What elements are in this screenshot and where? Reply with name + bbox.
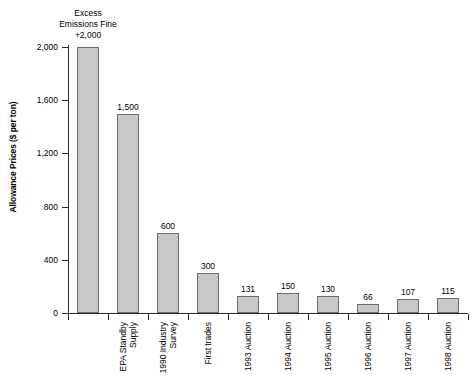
bar: [157, 233, 179, 313]
x-tick-mark: [468, 314, 469, 320]
bar: [117, 114, 139, 314]
bar: [197, 273, 219, 313]
x-category-label-line: 1994 Auction: [283, 322, 293, 371]
x-category-label: 1994 Auction: [268, 322, 308, 382]
x-category-label-line: 1997 Auction: [403, 322, 413, 371]
bar: [237, 296, 259, 313]
bar-value-label: 600: [138, 221, 198, 231]
bar: [277, 293, 299, 313]
first-bar-annotation: ExcessEmissions Fine+2,000: [28, 8, 148, 41]
x-category-label-line: Supply: [128, 322, 138, 371]
bar: [317, 296, 339, 313]
y-tick-label: 1,200: [14, 148, 58, 158]
bar: [357, 304, 379, 313]
first-bar-annotation-line: Excess: [28, 8, 148, 19]
bar-value-label: 115: [418, 286, 475, 296]
y-tick-mark: [62, 47, 68, 48]
x-tick-mark: [228, 314, 229, 320]
x-category-label-line: 1993 Auction: [243, 322, 253, 371]
x-tick-mark: [348, 314, 349, 320]
x-category-label: 1998 Auction: [428, 322, 468, 382]
first-bar-annotation-line: Emissions Fine: [28, 19, 148, 30]
x-tick-mark: [68, 314, 69, 320]
x-category-label-line: 1990 Industry: [158, 322, 168, 374]
y-tick-mark: [62, 153, 68, 154]
x-tick-mark: [308, 314, 309, 320]
bar: [397, 299, 419, 313]
bar-value-label: 300: [178, 261, 238, 271]
y-tick-label: 800: [14, 202, 58, 212]
x-category-label-line: 1998 Auction: [443, 322, 453, 371]
x-category-label-line: 1996 Auction: [363, 322, 373, 371]
x-tick-mark: [428, 314, 429, 320]
y-tick-mark: [62, 100, 68, 101]
x-tick-mark: [188, 314, 189, 320]
y-tick-mark: [62, 207, 68, 208]
x-category-label: 1995 Auction: [308, 322, 348, 382]
bar-value-label: +2,000: [28, 30, 148, 41]
bar: [77, 47, 99, 313]
y-tick-label: 1,600: [14, 95, 58, 105]
x-category-label: EPA StandbySupply: [108, 322, 148, 382]
bar-value-label: 1,500: [98, 102, 158, 112]
x-tick-mark: [148, 314, 149, 320]
x-tick-mark: [268, 314, 269, 320]
y-tick-mark: [62, 313, 68, 314]
bar-chart: Allowance Prices ($ per ton) 04008001,20…: [0, 0, 475, 382]
x-category-label: 1990 IndustrySurvey: [148, 322, 188, 382]
x-category-label-line: EPA Standby: [118, 322, 128, 371]
x-category-label-line: 1995 Auction: [323, 322, 333, 371]
bar: [437, 298, 459, 313]
y-axis-line: [68, 45, 69, 314]
x-category-label-line: First trades: [203, 322, 213, 365]
x-category-label: 1997 Auction: [388, 322, 428, 382]
y-tick-label: 0: [14, 308, 58, 318]
y-tick-mark: [62, 260, 68, 261]
x-category-label-line: Survey: [168, 322, 178, 374]
x-category-label: 1993 Auction: [228, 322, 268, 382]
x-category-label: First trades: [188, 322, 228, 382]
x-tick-mark: [388, 314, 389, 320]
x-tick-mark: [108, 314, 109, 320]
x-category-label: 1996 Auction: [348, 322, 388, 382]
y-tick-label: 2,000: [14, 42, 58, 52]
y-tick-label: 400: [14, 255, 58, 265]
